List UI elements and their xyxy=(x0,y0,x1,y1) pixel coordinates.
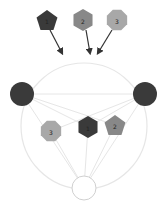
node-bottom-circle xyxy=(72,176,96,200)
node-right-circle xyxy=(133,82,157,106)
node-inner-3-octagon: 3 xyxy=(41,121,61,141)
edge-left-inner-2 xyxy=(22,94,115,125)
node-label: 1 xyxy=(86,125,90,132)
node-top-1-pentagon: 1 xyxy=(37,10,58,30)
node-label: 3 xyxy=(115,18,119,25)
edge-layer xyxy=(22,94,145,188)
diagram-canvas: 123312 xyxy=(0,0,158,206)
arrow-top-3 xyxy=(98,30,112,53)
node-label: 2 xyxy=(81,18,85,25)
edge-right-bottom xyxy=(84,94,145,188)
node-top-2-hexagon: 2 xyxy=(73,9,92,31)
node-layer: 123312 xyxy=(10,9,157,200)
node-inner-2-pentagon: 2 xyxy=(105,115,126,135)
node-label: 1 xyxy=(45,18,49,25)
arrow-top-2 xyxy=(86,30,90,53)
node-left-circle xyxy=(10,82,34,106)
arrow-top-1 xyxy=(50,30,62,53)
edge-right-inner-3 xyxy=(51,94,145,131)
node-top-3-octagon: 3 xyxy=(107,10,127,30)
diagram-svg: 123312 xyxy=(0,0,158,206)
node-label: 3 xyxy=(49,129,53,136)
arrow-layer xyxy=(50,30,112,53)
node-label: 2 xyxy=(113,123,117,130)
